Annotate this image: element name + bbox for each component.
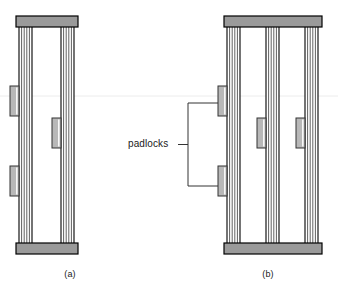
padlock-middle <box>257 118 266 148</box>
slat-group-band-1 <box>61 26 74 244</box>
padlock-right <box>296 118 305 148</box>
panel-b-caption: (b) <box>198 269 338 279</box>
padlock-left-upper-body <box>10 86 19 116</box>
slat-group-1 <box>266 26 279 244</box>
panel-a-padlocks <box>10 86 61 196</box>
panel-a <box>10 16 78 254</box>
panel-b <box>218 16 322 254</box>
slat-group-band-1 <box>266 26 279 244</box>
panel-a-slat-columns <box>19 26 74 244</box>
padlock-left-upper-body <box>218 86 227 116</box>
slat-group-0 <box>19 26 32 244</box>
slat-group-1 <box>61 26 74 244</box>
slat-group-2 <box>305 26 318 244</box>
padlock-middle-body <box>52 118 61 148</box>
padlock-middle-body <box>257 118 266 148</box>
diagram-canvas <box>0 0 338 297</box>
padlocks-annotation-label: padlocks <box>128 138 168 149</box>
padlock-right-body <box>296 118 305 148</box>
padlock-left-lower-body <box>10 166 19 196</box>
padlock-diagram: padlocks (a) (b) <box>0 0 338 297</box>
padlock-left-upper <box>218 86 227 116</box>
slat-group-0 <box>227 26 240 244</box>
slat-group-band-0 <box>19 26 32 244</box>
panel-a-caption: (a) <box>0 269 140 279</box>
panel-a-bottom-cap <box>16 243 78 254</box>
padlock-middle <box>52 118 61 148</box>
slat-group-band-2 <box>305 26 318 244</box>
padlocks-callout-bracket <box>178 103 218 186</box>
panel-b-bottom-cap <box>224 243 322 254</box>
panel-a-top-cap <box>16 16 78 27</box>
padlock-left-lower-body <box>218 166 227 196</box>
padlock-left-lower <box>218 166 227 196</box>
padlock-left-lower <box>10 166 19 196</box>
padlock-left-upper <box>10 86 19 116</box>
panel-b-top-cap <box>224 16 322 27</box>
slat-group-band-0 <box>227 26 240 244</box>
